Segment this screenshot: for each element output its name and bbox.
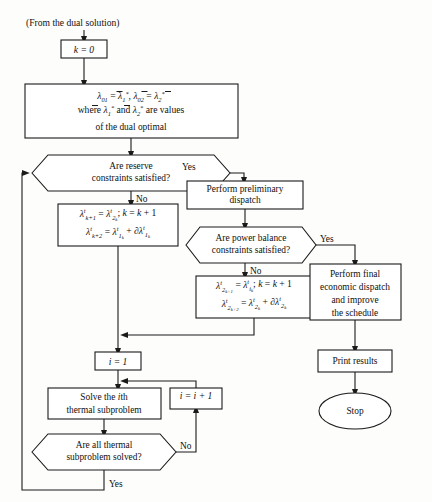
node-stop-label: Stop [346, 406, 364, 416]
node-increment-i-label: i = i + 1 [180, 390, 213, 401]
node-preliminary-dispatch-line2: dispatch [229, 195, 261, 205]
entry-note: (From the dual solution) [26, 17, 120, 29]
node-final-dispatch-line1: Perform final [330, 269, 381, 279]
node-init-k-label: k = 0 [74, 44, 95, 55]
flowchart-canvas: (From the dual solution) k = 0 λ01 = λ1*… [0, 0, 432, 502]
node-final-dispatch-line4: the schedule [332, 308, 379, 318]
connector-reserve-yes [230, 173, 244, 181]
node-reserve-check-line1: Are reserve [109, 161, 152, 171]
branch-label-solved-no: No [180, 441, 192, 451]
node-power-balance-line1: Are power balance [216, 233, 287, 243]
node-preliminary-dispatch-line1: Perform preliminary [207, 184, 284, 194]
node-set-i-label: i = 1 [109, 356, 128, 367]
node-all-solved-line2: subproblem solved? [66, 452, 141, 462]
node-final-dispatch-line3: and improve [331, 295, 378, 305]
node-solve-subproblem-line1: Solve the ith [80, 392, 128, 402]
node-dual-init-line3: of the dual optimal [95, 122, 166, 132]
node-power-balance-line2: constraints satisfied? [212, 245, 290, 255]
connector-power-yes [316, 245, 355, 264]
branch-label-power-no: No [250, 266, 262, 276]
node-solve-subproblem-line2: thermal subproblem [66, 405, 142, 415]
branch-label-solved-yes: Yes [109, 479, 123, 489]
connector-lambda2-feedback [124, 318, 254, 335]
branch-label-power-yes: Yes [320, 234, 334, 244]
flowchart-page: (From the dual solution) k = 0 λ01 = λ1*… [0, 0, 432, 502]
node-reserve-check-line2: constraints satisfied? [92, 173, 170, 183]
svg-text:Solve the ith: Solve the ith [80, 392, 128, 402]
node-dual-init-line2: where λ1* and λ2* are values [78, 104, 185, 117]
node-final-dispatch-line2: economic dispatch [320, 282, 390, 292]
node-all-solved-line1: Are all thermal [76, 440, 133, 450]
connector-increment-feedback [124, 381, 196, 388]
node-print-results-label: Print results [332, 356, 377, 366]
branch-label-reserve-yes: Yes [182, 162, 196, 172]
branch-label-reserve-no: No [136, 194, 148, 204]
